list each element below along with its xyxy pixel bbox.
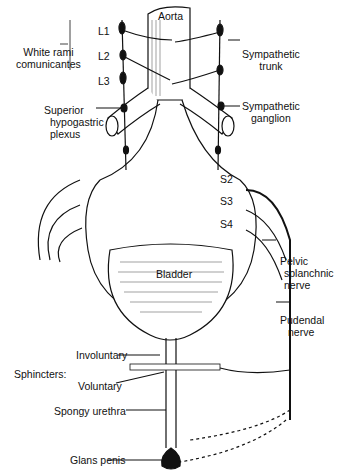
- label-l2: L2: [98, 50, 110, 62]
- label-sympathetic-ganglion-line2: ganglion: [242, 112, 300, 124]
- label-l3: L3: [98, 75, 110, 87]
- label-sympathetic-trunk: Sympathetic trunk: [242, 48, 300, 72]
- label-sympathetic-ganglion-line1: Sympathetic: [242, 100, 300, 112]
- label-aorta: Aorta: [158, 10, 183, 22]
- label-pudendal-line1: Pudendal: [280, 314, 324, 326]
- label-voluntary: Voluntary: [78, 380, 122, 392]
- label-sphincters: Sphincters:: [14, 368, 67, 380]
- label-superior-hypogastric-line2: hypogastric: [44, 116, 104, 128]
- label-white-rami-line1: White rami: [16, 46, 81, 58]
- label-white-rami: White rami comunicantes: [16, 46, 81, 70]
- label-spongy-urethra: Spongy urethra: [54, 405, 126, 417]
- label-involuntary: Involuntary: [76, 349, 127, 361]
- label-bladder: Bladder: [156, 268, 192, 280]
- label-pudendal-nerve: Pudendal nerve: [280, 314, 324, 338]
- label-superior-hypogastric-line1: Superior: [44, 104, 104, 116]
- label-pelvic-splanchnic-line1: Pelvic: [280, 255, 334, 267]
- glans-penis: [162, 448, 181, 469]
- label-superior-hypogastric-plexus: Superior hypogastric plexus: [44, 104, 104, 140]
- label-superior-hypogastric-line3: plexus: [44, 128, 104, 140]
- label-pudendal-line2: nerve: [280, 326, 324, 338]
- urethra: [166, 338, 176, 448]
- label-s4: S4: [220, 218, 233, 230]
- label-l1: L1: [98, 25, 110, 37]
- label-sympathetic-ganglion: Sympathetic ganglion: [242, 100, 300, 124]
- label-glans-penis: Glans penis: [70, 454, 125, 466]
- label-sympathetic-trunk-line2: trunk: [242, 60, 300, 72]
- label-pelvic-splanchnic-nerve: Pelvic splanchnic nerve: [280, 255, 334, 291]
- label-s2: S2: [220, 173, 233, 185]
- label-s3: S3: [220, 195, 233, 207]
- label-pelvic-splanchnic-line3: nerve: [280, 279, 334, 291]
- label-sympathetic-trunk-line1: Sympathetic: [242, 48, 300, 60]
- label-pelvic-splanchnic-line2: splanchnic: [280, 267, 334, 279]
- label-white-rami-line2: comunicantes: [16, 58, 81, 70]
